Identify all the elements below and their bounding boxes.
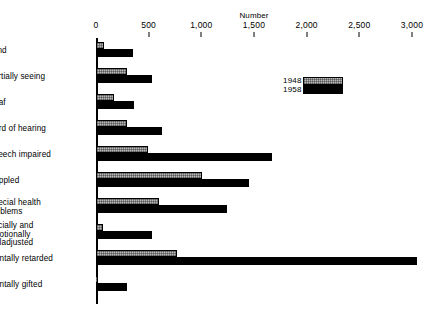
bar-row: Hard of hearing: [0, 120, 440, 146]
bar-1958: [96, 231, 152, 239]
bar-1948: [96, 42, 104, 49]
bar-1948: [96, 198, 159, 205]
x-tick-label-2500: 2,500: [348, 20, 370, 30]
x-tick-mark-2000: [306, 32, 307, 37]
bar-row: Partially seeing: [0, 68, 440, 94]
category-label: Partially seeing: [0, 73, 74, 82]
x-tick-mark-1000: [201, 32, 202, 37]
category-label: Mentally gifted: [0, 281, 74, 290]
bar-row: Crippled: [0, 172, 440, 198]
category-label: Hard of hearing: [0, 125, 74, 134]
bar-rows: BlindPartially seeingDeafHard of hearing…: [0, 42, 440, 302]
category-label: Speech impaired: [0, 151, 74, 160]
x-tick-mark-2500: [359, 32, 360, 37]
bar-row: Deaf: [0, 94, 440, 120]
x-tick-mark-500: [148, 32, 149, 37]
bar-row: Mentally gifted: [0, 276, 440, 302]
x-tick-label-0: 0: [94, 20, 99, 30]
bar-1958: [96, 101, 134, 109]
bar-1958: [96, 283, 127, 291]
bar-1958: [96, 75, 152, 83]
bar-1958: [96, 179, 249, 187]
category-label: Special healthproblems: [0, 199, 74, 216]
bar-1958: [96, 205, 227, 213]
category-label: Mentally retarded: [0, 255, 74, 264]
axis-title-number: Number: [214, 11, 294, 20]
category-label: Blind: [0, 47, 74, 56]
legend-label-1958: 1958: [283, 86, 302, 95]
category-label: Crippled: [0, 177, 74, 186]
legend-swatches: [303, 77, 343, 94]
bar-row: Socially andemotionallymaladjusted: [0, 224, 440, 250]
category-label: Deaf: [0, 99, 74, 108]
x-tick-mark-1500: [254, 32, 255, 37]
legend-labels: 1948 1958: [283, 77, 303, 94]
legend-swatch-1958: [303, 85, 343, 94]
bar-row: Blind: [0, 42, 440, 68]
legend-swatch-1948: [303, 77, 343, 85]
x-tick-label-1500: 1,500: [243, 20, 265, 30]
category-label: Socially andemotionallymaladjusted: [0, 222, 74, 248]
bar-1948: [96, 146, 148, 153]
bar-row: Mentally retarded: [0, 250, 440, 276]
bar-1958: [96, 49, 133, 57]
legend: 1948 1958: [283, 77, 343, 94]
bar-1948: [96, 94, 114, 101]
x-tick-mark-3000: [412, 32, 413, 37]
bar-1948: [96, 224, 103, 231]
bar-1958: [96, 127, 162, 135]
x-tick-label-1000: 1,000: [190, 20, 212, 30]
bar-1958: [96, 153, 272, 161]
x-tick-label-2000: 2,000: [296, 20, 318, 30]
x-tick-label-3000: 3,000: [401, 20, 423, 30]
bar-1948: [96, 172, 202, 179]
bar-1948: [96, 120, 127, 127]
bar-1948: [96, 68, 127, 75]
bar-1948: [96, 276, 98, 283]
bar-chart: Number 05001,0001,5002,0002,5003,000 Bli…: [0, 0, 440, 317]
bar-1948: [96, 250, 177, 257]
bar-row: Special healthproblems: [0, 198, 440, 224]
bar-1958: [96, 257, 417, 265]
x-tick-label-500: 500: [141, 20, 156, 30]
bar-row: Speech impaired: [0, 146, 440, 172]
